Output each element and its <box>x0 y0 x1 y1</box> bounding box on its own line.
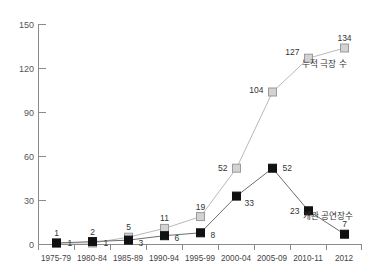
data-point-label: 23 <box>290 206 300 216</box>
data-point-label: 127 <box>285 47 299 57</box>
x-tick-label: 2012 <box>335 254 354 263</box>
x-tick-label: 1975-79 <box>41 254 71 263</box>
y-axis-ticks <box>39 25 47 201</box>
line-chart: 150 120 90 60 30 0 1975-79 1980-84 1985-… <box>0 0 367 273</box>
data-point-label: 52 <box>218 163 228 173</box>
y-tick-label: 120 <box>19 64 34 74</box>
series-annotation-newly-opened-venues: 개관 공연장수 <box>303 211 353 221</box>
data-point-label: 52 <box>283 163 293 173</box>
y-tick-label: 60 <box>24 152 34 162</box>
chart-container: 150 120 90 60 30 0 1975-79 1980-84 1985-… <box>0 0 367 273</box>
data-point-label: 134 <box>337 33 351 43</box>
y-tick-label: 0 <box>29 240 34 250</box>
data-point-marker <box>89 238 97 246</box>
data-point-marker <box>233 164 241 172</box>
data-point-marker <box>269 164 277 172</box>
data-point-marker <box>341 44 349 52</box>
data-point-label: 1 <box>68 238 73 248</box>
data-point-label: 2 <box>90 227 95 237</box>
x-axis-labels: 1975-79 1980-84 1985-89 1990-94 1995-99 … <box>41 254 354 263</box>
data-point-label: 33 <box>245 198 255 208</box>
data-point-marker <box>161 232 169 240</box>
data-point-label: 6 <box>175 233 180 243</box>
data-point-label: 1 <box>54 228 59 238</box>
x-tick-label: 1990-94 <box>149 254 179 263</box>
data-point-marker <box>53 239 61 247</box>
data-point-label: 19 <box>196 202 206 212</box>
data-point-marker <box>125 236 133 244</box>
y-axis-labels: 150 120 90 60 30 0 <box>19 20 34 250</box>
x-tick-label: 1985-89 <box>113 254 143 263</box>
data-point-marker <box>197 229 205 237</box>
data-point-label: 8 <box>211 230 216 240</box>
data-point-label: 104 <box>249 85 263 95</box>
data-point-marker <box>197 213 205 221</box>
data-point-label: 1 <box>104 238 109 248</box>
y-tick-label: 150 <box>19 20 34 30</box>
series-annotation-cumulative-theaters: 누적 극장 수 <box>302 58 347 69</box>
data-point-label: 3 <box>139 238 144 248</box>
y-tick-label: 90 <box>24 108 34 118</box>
x-axis-ticks <box>39 245 362 251</box>
x-tick-label: 2010-11 <box>293 254 323 263</box>
data-point-marker <box>233 192 241 200</box>
data-point-marker <box>341 230 349 238</box>
data-point-label: 5 <box>126 222 131 232</box>
x-tick-label: 2005-09 <box>257 254 287 263</box>
data-point-marker <box>269 88 277 96</box>
x-tick-label: 1995-99 <box>185 254 215 263</box>
y-tick-label: 30 <box>24 196 34 206</box>
data-point-label: 11 <box>160 213 169 223</box>
x-tick-label: 2000-04 <box>221 254 251 263</box>
x-tick-label: 1980-84 <box>77 254 107 263</box>
